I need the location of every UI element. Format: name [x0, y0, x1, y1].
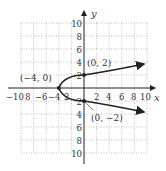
- svg-text:10: 10: [71, 19, 82, 29]
- lower-intercept-leader: [85, 102, 93, 110]
- svg-text:−4: −4: [48, 92, 61, 102]
- svg-text:−10: −10: [6, 92, 24, 102]
- svg-text:8: 8: [25, 92, 30, 102]
- svg-text:−6: −6: [35, 92, 48, 102]
- svg-text:10: 10: [71, 149, 82, 159]
- upper-intercept-label: (0, 2): [87, 58, 111, 68]
- vertex-point: [57, 86, 61, 90]
- svg-text:2: 2: [77, 97, 82, 107]
- svg-text:8: 8: [77, 136, 82, 146]
- svg-text:4: 4: [77, 58, 82, 68]
- svg-text:8: 8: [131, 92, 136, 102]
- svg-text:6: 6: [77, 45, 82, 55]
- svg-text:6: 6: [119, 92, 124, 102]
- y-axis-label: y: [90, 8, 97, 19]
- lower-intercept-label: (0, −2): [91, 113, 123, 123]
- svg-text:6: 6: [77, 123, 82, 133]
- svg-text:4: 4: [77, 110, 82, 120]
- x-axis-label: x: [154, 92, 160, 103]
- parabola-chart: x y −10 8 −6 −4 2 2 4 6 8 10 10 8 6 4 2 …: [0, 0, 166, 171]
- svg-text:8: 8: [77, 32, 82, 42]
- y-tick-labels: 10 8 6 4 2 2 4 6 8 10: [71, 19, 82, 159]
- svg-text:10: 10: [140, 92, 151, 102]
- vertex-label: (−4, 0): [20, 73, 52, 83]
- svg-text:4: 4: [106, 92, 111, 102]
- svg-text:2: 2: [94, 92, 99, 102]
- upper-intercept-point: [82, 73, 86, 77]
